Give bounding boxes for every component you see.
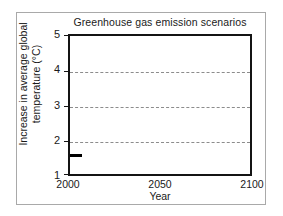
gridline-3 [70, 107, 250, 108]
chart-title: Greenhouse gas emission scenarios [68, 16, 252, 28]
x-axis-label: Year [68, 190, 252, 202]
chart-figure: Greenhouse gas emission scenarios Increa… [0, 0, 283, 216]
gridline-4 [70, 72, 250, 73]
y-tick-mark-1 [64, 174, 70, 175]
x-tick-label-2100: 2100 [229, 178, 275, 190]
y-tick-mark-5 [64, 35, 70, 36]
series-line-observed [70, 154, 82, 157]
y-axis-label-line2: temperature (°C) [30, 13, 43, 155]
y-axis-label-line1: Increase in average global [17, 13, 30, 155]
y-tick-label-3: 3 [44, 99, 60, 111]
y-tick-mark-3 [64, 106, 70, 107]
y-tick-mark-2 [64, 141, 70, 142]
gridline-2 [70, 142, 250, 143]
y-axis-label: Increase in average global temperature (… [17, 13, 43, 155]
x-tick-label-2050: 2050 [137, 178, 183, 190]
x-tick-label-2000: 2000 [45, 178, 91, 190]
plot-area [68, 34, 252, 176]
y-tick-label-5: 5 [44, 28, 60, 40]
y-tick-label-4: 4 [44, 63, 60, 75]
y-tick-label-2: 2 [44, 134, 60, 146]
y-tick-mark-4 [64, 71, 70, 72]
